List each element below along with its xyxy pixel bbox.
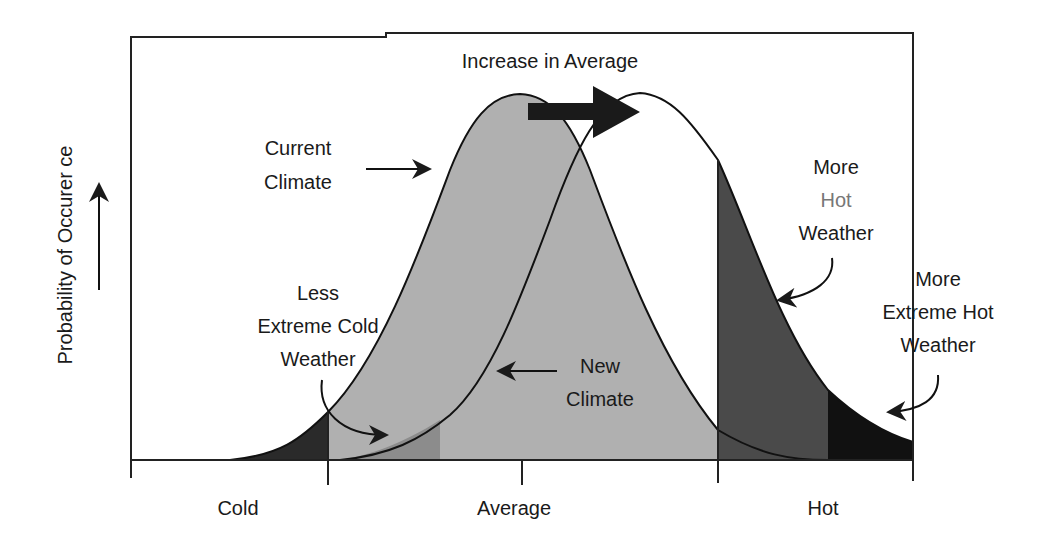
current-climate-label-line1: Current [265, 137, 332, 159]
less-extreme-cold-label-line3: Weather [280, 348, 356, 370]
more-extreme-hot-label-line1: More [915, 268, 961, 290]
x-label-average: Average [477, 497, 551, 519]
diagram-title: Increase in Average [462, 50, 638, 72]
x-label-hot: Hot [807, 497, 839, 519]
more-hot-arrow-icon [780, 258, 832, 300]
less-extreme-cold-label-line1: Less [297, 282, 339, 304]
more-hot-area [718, 160, 828, 460]
new-climate-label-line2: Climate [566, 388, 634, 410]
more-hot-label-line2: Hot [820, 189, 852, 211]
y-axis-label: Probability of Occurer ce [54, 146, 76, 365]
extreme-cold-current-area [230, 412, 328, 460]
climate-shift-diagram: Increase in Average Probability of Occur… [0, 0, 1050, 548]
more-extreme-hot-label-line3: Weather [900, 334, 976, 356]
more-extreme-hot-label-line2: Extreme Hot [882, 301, 994, 323]
more-hot-label-line1: More [813, 156, 859, 178]
x-label-cold: Cold [217, 497, 258, 519]
more-extreme-hot-arrow-icon [890, 375, 938, 412]
more-hot-label-line3: Weather [798, 222, 874, 244]
less-extreme-cold-label-line2: Extreme Cold [257, 315, 378, 337]
current-climate-label-line2: Climate [264, 171, 332, 193]
new-climate-label-line1: New [580, 355, 621, 377]
